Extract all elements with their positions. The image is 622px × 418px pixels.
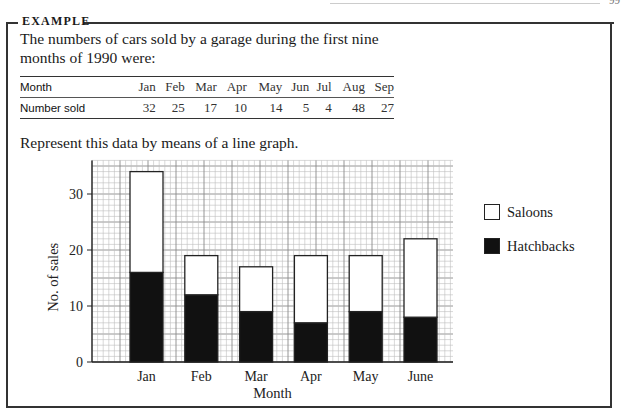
bar-segment-hatchbacks [130,272,163,362]
x-axis-label: Month [253,385,292,401]
x-tick-label: Jan [137,369,156,384]
y-axis-label: No. of sales [45,242,61,311]
bar-segment-saloons [404,239,437,317]
x-tick-label: June [408,369,434,384]
bar-segment-saloons [130,172,163,273]
legend-item-saloons: Saloons [484,202,575,222]
bar-segment-hatchbacks [404,317,437,362]
bar-segment-hatchbacks [294,323,327,362]
bar-segment-hatchbacks [349,312,382,362]
bar-segment-saloons [294,256,327,323]
x-tick-label: Apr [300,369,322,384]
legend-label-hatchbacks: Hatchbacks [507,238,575,255]
y-tick-label: 20 [69,243,83,258]
bar-segment-saloons [185,256,218,295]
saloons-swatch [484,204,500,220]
y-tick-label: 30 [69,187,83,202]
bar-segment-saloons [349,256,382,312]
legend-item-hatchbacks: Hatchbacks [484,236,575,256]
chart-legend: Saloons Hatchbacks [484,202,575,270]
bar-segment-hatchbacks [185,295,218,362]
hatchbacks-swatch [484,238,500,254]
x-tick-label: Feb [191,369,212,384]
bar-segment-hatchbacks [240,312,273,362]
x-tick-label: May [353,369,379,384]
y-tick-label: 10 [69,299,83,314]
bar-segment-saloons [240,267,273,312]
legend-label-saloons: Saloons [507,204,553,221]
x-tick-label: Mar [244,369,268,384]
y-tick-label: 0 [76,355,83,370]
